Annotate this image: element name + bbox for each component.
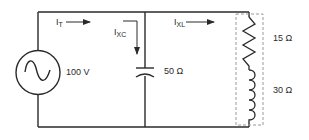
capacitor-current-label: IXC [114,28,126,38]
circuit-schematic [0,0,309,140]
inductor-icon [249,70,255,122]
capacitor-reactance-label: 50 Ω [164,67,183,76]
circuit-diagram: IT IXC IXL 100 V 50 Ω 15 Ω 30 Ω [0,0,309,140]
inductor-current-label: IXL [174,18,185,28]
current-arrows [66,21,214,54]
ac-source-icon [16,51,60,95]
source-voltage-label: 100 V [66,68,90,77]
capacitor-icon [136,68,154,77]
inductor-reactance-label: 30 Ω [273,86,292,95]
resistor-value-label: 15 Ω [273,34,292,43]
total-current-label: IT [56,18,63,28]
resistor-icon [243,17,255,70]
